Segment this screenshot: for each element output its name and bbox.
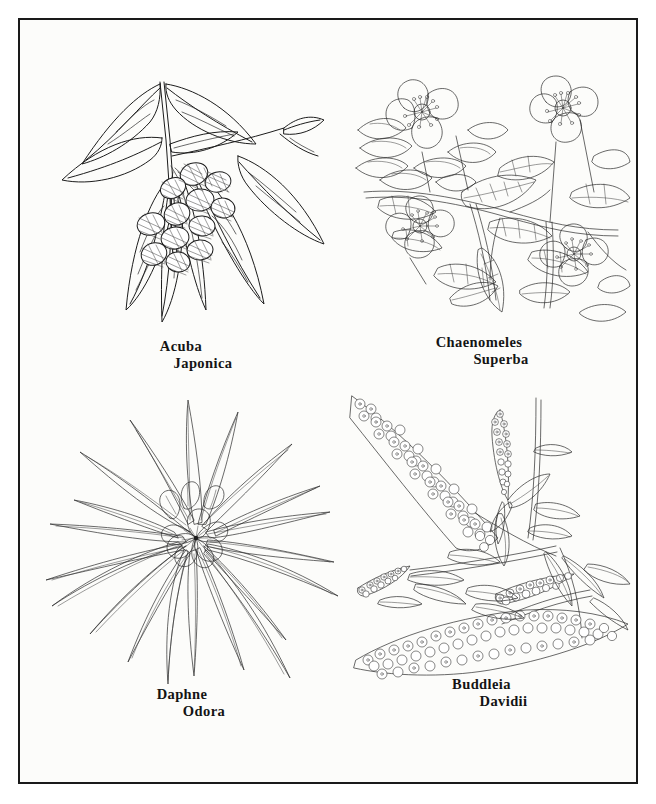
berry-cluster <box>135 159 237 275</box>
caption-species: Superba <box>372 351 630 368</box>
caption-buddleia-davidii: Buddleia Davidii <box>350 676 635 710</box>
plate-content: Acuba Japonica <box>20 20 636 782</box>
illustration-chaenomeles-superba <box>350 72 630 342</box>
caption-daphne-odora: Daphne Odora <box>38 686 348 720</box>
caption-genus: Daphne <box>16 686 348 703</box>
caption-species: Japonica <box>64 355 342 372</box>
illustration-daphne-odora <box>38 390 348 690</box>
caption-genus: Chaenomeles <box>328 334 630 351</box>
caption-genus: Acuba <box>20 338 342 355</box>
figure-acuba-japonica: Acuba Japonica <box>42 48 342 368</box>
caption-chaenomeles-superba: Chaenomeles Superba <box>350 334 630 368</box>
illustration-buddleia-davidii <box>350 388 635 688</box>
figure-buddleia-davidii: Buddleia Davidii <box>350 388 635 723</box>
panicle-small-upper-right <box>492 410 512 500</box>
illustration-acuba-japonica <box>42 48 342 348</box>
caption-species: Davidii <box>372 693 635 710</box>
figure-daphne-odora: Daphne Odora <box>38 390 348 730</box>
figure-chaenomeles-superba: Chaenomeles Superba <box>350 72 630 372</box>
caption-acuba-japonica: Acuba Japonica <box>42 338 342 372</box>
panicle-small-left <box>357 566 410 597</box>
plate-border: Acuba Japonica <box>18 18 638 784</box>
caption-species: Odora <box>60 703 348 720</box>
panicle-large-upper <box>350 396 498 551</box>
panicle-large-lower <box>354 610 628 679</box>
illustration-page: Acuba Japonica <box>0 0 656 804</box>
caption-genus: Buddleia <box>328 676 635 693</box>
